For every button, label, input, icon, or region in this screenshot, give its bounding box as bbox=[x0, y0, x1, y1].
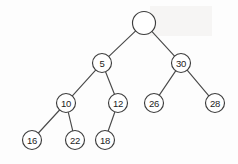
tree-node-18[interactable]: 18 bbox=[96, 131, 115, 150]
tree-node-12[interactable]: 12 bbox=[109, 94, 128, 113]
tree-node-30[interactable]: 30 bbox=[172, 54, 191, 73]
tree-node-10[interactable]: 10 bbox=[57, 94, 76, 113]
tree-node-26[interactable]: 26 bbox=[145, 94, 164, 113]
node-circle-root bbox=[133, 12, 156, 35]
binary-tree-figure: 53010122628162218 bbox=[0, 0, 238, 164]
node-label-16: 16 bbox=[27, 135, 37, 146]
scan-artifact bbox=[150, 6, 212, 36]
tree-node-root[interactable] bbox=[133, 12, 156, 35]
node-label-30: 30 bbox=[176, 58, 186, 69]
tree-node-16[interactable]: 16 bbox=[23, 131, 42, 150]
node-label-5: 5 bbox=[99, 58, 104, 69]
node-label-10: 10 bbox=[61, 98, 71, 109]
tree-node-22[interactable]: 22 bbox=[66, 131, 85, 150]
node-label-18: 18 bbox=[100, 135, 110, 146]
node-label-28: 28 bbox=[210, 98, 220, 109]
tree-node-5[interactable]: 5 bbox=[93, 54, 112, 73]
binary-tree-canvas: 53010122628162218 bbox=[0, 0, 238, 164]
node-label-12: 12 bbox=[113, 98, 123, 109]
node-label-22: 22 bbox=[70, 135, 80, 146]
tree-node-28[interactable]: 28 bbox=[206, 94, 225, 113]
node-label-26: 26 bbox=[149, 98, 159, 109]
